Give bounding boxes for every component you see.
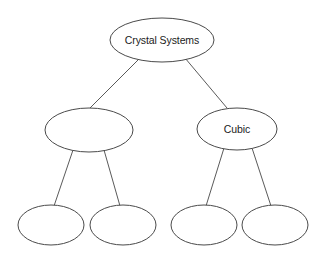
node-leaf-4-shape bbox=[242, 205, 308, 245]
node-leaf-1[interactable] bbox=[18, 205, 84, 245]
edge-mid-right-to-leaf-4 bbox=[252, 148, 271, 206]
node-mid-right-label: Cubic bbox=[224, 123, 250, 135]
edge-mid-left-to-leaf-2 bbox=[104, 150, 120, 206]
node-root[interactable]: Crystal Systems bbox=[110, 18, 214, 62]
node-leaf-2[interactable] bbox=[90, 205, 156, 245]
edge-mid-right-to-leaf-3 bbox=[206, 148, 224, 206]
node-mid-left-shape bbox=[45, 108, 133, 152]
node-leaf-3-shape bbox=[171, 205, 237, 245]
node-root-label: Crystal Systems bbox=[125, 34, 199, 46]
node-mid-right[interactable]: Cubic bbox=[197, 108, 277, 150]
node-leaf-3[interactable] bbox=[171, 205, 237, 245]
node-leaf-1-shape bbox=[18, 205, 84, 245]
edge-mid-left-to-leaf-1 bbox=[54, 150, 73, 206]
crystal-systems-diagram: Crystal Systems Cubic bbox=[0, 0, 319, 257]
tree-diagram-canvas: Crystal Systems Cubic bbox=[0, 0, 319, 257]
node-mid-left[interactable] bbox=[45, 108, 133, 152]
node-leaf-4[interactable] bbox=[242, 205, 308, 245]
edge-root-to-mid-left bbox=[90, 58, 140, 108]
node-leaf-2-shape bbox=[90, 205, 156, 245]
edge-root-to-mid-right bbox=[185, 58, 227, 108]
